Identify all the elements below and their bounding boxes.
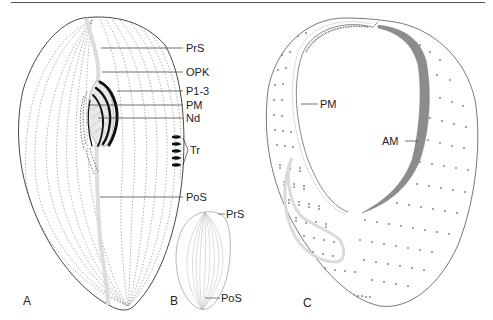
panel-label-b: B — [170, 294, 178, 308]
pm-kinetids — [306, 26, 368, 52]
label-nd: Nd — [186, 112, 200, 124]
cell-outline-a — [19, 17, 184, 310]
label-p1-3: P1-3 — [186, 85, 209, 97]
label-pos-a: PoS — [186, 191, 207, 203]
panel-b-kineties — [187, 212, 223, 310]
ciliate-figure: PrS OPK P1-3 PM Nd Tr PoS A PrS PoS B — [0, 0, 493, 320]
cell-outline-c — [266, 18, 478, 306]
label-opk: OPK — [186, 66, 210, 78]
panel-c-basal-bodies — [273, 32, 469, 298]
label-tr: Tr — [190, 144, 200, 156]
adoral-membranelles-band — [362, 25, 429, 213]
label-am: AM — [382, 135, 399, 147]
suture-a — [86, 18, 108, 305]
label-prs-b: PrS — [226, 208, 244, 220]
label-pm-a: PM — [186, 99, 203, 111]
panel-a: PrS OPK P1-3 PM Nd Tr PoS A — [19, 17, 210, 310]
oral-notch — [372, 22, 378, 28]
panel-b: PrS PoS B — [170, 208, 244, 310]
trichocysts — [172, 135, 181, 166]
label-pm-c: PM — [320, 98, 337, 110]
label-prs-a: PrS — [186, 42, 204, 54]
panel-c: PM AM C — [266, 18, 478, 310]
paroral-membrane-c — [296, 25, 372, 212]
label-pos-b: PoS — [221, 292, 242, 304]
panel-label-c: C — [303, 296, 312, 310]
leader-lines-c — [301, 104, 418, 141]
panel-label-a: A — [23, 294, 31, 308]
